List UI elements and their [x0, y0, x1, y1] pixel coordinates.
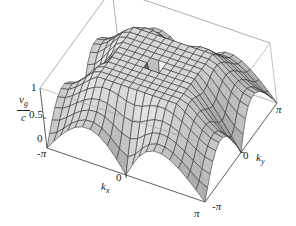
x-axis-label: kx: [101, 181, 109, 195]
y-tick-neg-pi: -π: [212, 201, 221, 212]
y-tick-pi: π: [276, 104, 282, 115]
z-tick-0: 0: [37, 133, 43, 144]
x-tick-neg-pi: -π: [37, 148, 46, 159]
x-tick-pi: π: [194, 208, 200, 219]
z-tick-0.5: 0.5: [29, 109, 43, 120]
z-tick-1: 1: [31, 82, 37, 93]
surface-canvas: [0, 0, 296, 226]
z-axis-label: vg c: [17, 94, 30, 123]
surface-plot: 1 0.5 0 vg c -π 0 π kx -π 0 π ky: [0, 0, 296, 226]
y-axis-label: ky: [256, 152, 264, 166]
x-tick-0: 0: [116, 172, 122, 183]
y-tick-0: 0: [243, 150, 249, 161]
